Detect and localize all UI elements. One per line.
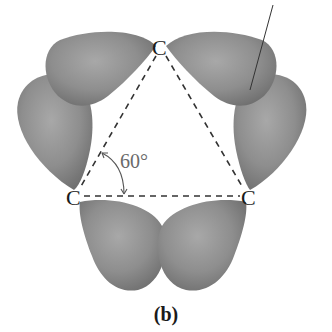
orbital-lobe-bottom-right	[158, 200, 247, 291]
orbital-lobe-bottom-left	[80, 200, 166, 291]
carbon-atom-top: C	[152, 35, 167, 60]
angle-label: 60°	[120, 150, 148, 172]
figure-caption: (b)	[0, 303, 332, 326]
cyclopropane-bent-bond-diagram: 60° C C C	[0, 0, 332, 332]
orbital-lobe-right-upper	[166, 32, 277, 106]
carbon-atom-right: C	[241, 185, 256, 210]
carbon-atom-left: C	[66, 185, 81, 210]
orbital-lobe-left-upper	[46, 32, 157, 106]
